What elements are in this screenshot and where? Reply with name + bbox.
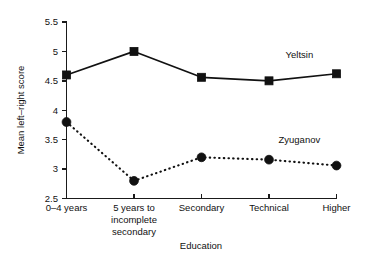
data-point-yeltsin xyxy=(198,73,206,81)
series-layer xyxy=(62,47,341,185)
y-tick-label: 4.5 xyxy=(45,75,58,86)
y-tick-group: 2.533.544.555.5 xyxy=(45,16,67,204)
data-point-zyuganov xyxy=(62,118,71,127)
series-line-zyuganov xyxy=(67,122,337,181)
data-point-zyuganov xyxy=(130,176,139,185)
line-chart: 2.533.544.555.5 Mean left–right score 0–… xyxy=(0,0,379,269)
x-category-labels: 0–4 years5 years toincompletesecondarySe… xyxy=(46,202,351,237)
x-category-label: Higher xyxy=(323,202,351,213)
data-point-yeltsin xyxy=(265,77,273,85)
y-axis-title: Mean left–right score xyxy=(15,66,26,155)
y-tick-label: 5 xyxy=(53,46,58,57)
series-annotation-yeltsin: Yeltsin xyxy=(286,49,314,60)
data-point-yeltsin xyxy=(333,70,341,78)
x-category-label: 5 years to xyxy=(113,202,155,213)
y-tick-label: 3.5 xyxy=(45,134,58,145)
data-point-yeltsin xyxy=(63,71,71,79)
x-category-label: 0–4 years xyxy=(46,202,88,213)
x-category-label: secondary xyxy=(112,226,156,237)
chart-container: 2.533.544.555.5 Mean left–right score 0–… xyxy=(0,0,379,269)
series-annotation-zyuganov: Zyuganov xyxy=(279,134,321,145)
x-axis-group: 0–4 years5 years toincompletesecondarySe… xyxy=(46,194,351,252)
x-category-label: Technical xyxy=(249,202,289,213)
data-point-zyuganov xyxy=(265,155,274,164)
data-point-zyuganov xyxy=(332,161,341,170)
data-point-yeltsin xyxy=(130,47,138,55)
y-tick-label: 3 xyxy=(53,163,58,174)
x-category-label: Secondary xyxy=(179,202,225,213)
x-category-label: incomplete xyxy=(111,214,157,225)
y-tick-label: 4 xyxy=(53,105,58,116)
data-point-zyuganov xyxy=(197,153,206,162)
x-axis-title: Education xyxy=(180,240,222,251)
y-axis-group: 2.533.544.555.5 Mean left–right score xyxy=(15,16,67,204)
annotation-layer: YeltsinZyuganov xyxy=(279,49,321,144)
y-tick-label: 5.5 xyxy=(45,16,58,27)
